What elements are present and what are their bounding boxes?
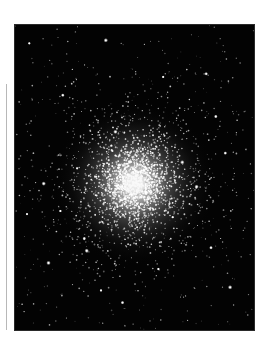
- star: [55, 113, 56, 114]
- star: [197, 160, 198, 161]
- star: [82, 224, 83, 225]
- star: [156, 170, 158, 172]
- star: [147, 186, 148, 187]
- star: [225, 182, 226, 183]
- star: [158, 155, 159, 156]
- star: [107, 153, 108, 154]
- star: [133, 219, 135, 221]
- star: [116, 111, 118, 113]
- star: [157, 140, 159, 142]
- star: [163, 186, 164, 187]
- star: [145, 287, 146, 288]
- star: [108, 184, 109, 185]
- star: [115, 212, 117, 214]
- star: [124, 176, 125, 177]
- star: [76, 79, 77, 80]
- star: [90, 217, 91, 218]
- star: [159, 164, 160, 165]
- star: [195, 73, 196, 74]
- star: [143, 152, 144, 153]
- star: [117, 213, 119, 215]
- star: [119, 211, 120, 212]
- star: [164, 224, 165, 225]
- star: [79, 211, 80, 212]
- star: [202, 227, 203, 228]
- star: [116, 163, 118, 165]
- star: [247, 221, 248, 222]
- star: [233, 304, 234, 305]
- star: [164, 160, 166, 162]
- star: [84, 186, 86, 188]
- star: [112, 170, 113, 171]
- star: [133, 161, 135, 163]
- star: [111, 134, 113, 136]
- star: [198, 160, 199, 161]
- star: [244, 228, 245, 229]
- star: [169, 215, 171, 217]
- star: [170, 180, 172, 182]
- star: [160, 246, 161, 247]
- star: [124, 163, 126, 165]
- star: [173, 166, 175, 168]
- star: [100, 234, 101, 235]
- star: [128, 198, 129, 199]
- star: [149, 227, 150, 228]
- star: [103, 133, 105, 135]
- star: [162, 163, 163, 164]
- star: [111, 179, 112, 180]
- star: [134, 270, 135, 271]
- star: [125, 138, 127, 140]
- star: [175, 135, 176, 136]
- star: [122, 131, 123, 132]
- star: [100, 89, 101, 90]
- star: [92, 241, 93, 242]
- star: [185, 295, 186, 296]
- star: [85, 100, 86, 101]
- star: [112, 277, 113, 278]
- star: [187, 245, 188, 246]
- star: [156, 233, 157, 234]
- star: [157, 191, 159, 193]
- star: [90, 110, 92, 112]
- star: [149, 209, 151, 211]
- star: [171, 207, 172, 208]
- star: [184, 108, 185, 109]
- star: [165, 208, 166, 209]
- star: [108, 149, 109, 150]
- star: [180, 130, 181, 131]
- star: [195, 168, 196, 169]
- star: [21, 303, 23, 305]
- star: [186, 69, 188, 71]
- star: [113, 167, 115, 169]
- star: [83, 218, 84, 219]
- star: [155, 249, 156, 250]
- star: [110, 258, 111, 259]
- star: [58, 219, 59, 220]
- star: [139, 140, 141, 142]
- margin-rule: [6, 84, 7, 330]
- star: [100, 197, 101, 198]
- star: [63, 182, 65, 184]
- bright-star-core: [60, 210, 62, 212]
- star: [234, 176, 235, 177]
- star: [166, 185, 167, 186]
- star: [153, 161, 154, 162]
- star: [213, 138, 215, 140]
- star: [205, 117, 206, 118]
- star: [150, 155, 151, 156]
- star: [123, 146, 125, 148]
- star: [214, 79, 215, 80]
- star: [165, 171, 166, 172]
- star: [147, 164, 149, 166]
- star: [115, 215, 117, 217]
- star: [65, 196, 67, 198]
- star: [150, 41, 151, 42]
- star: [38, 102, 39, 103]
- star: [62, 195, 64, 197]
- star: [145, 188, 147, 190]
- star: [151, 120, 152, 121]
- star: [27, 294, 28, 295]
- star: [61, 295, 63, 297]
- star: [150, 153, 151, 154]
- star: [219, 126, 220, 127]
